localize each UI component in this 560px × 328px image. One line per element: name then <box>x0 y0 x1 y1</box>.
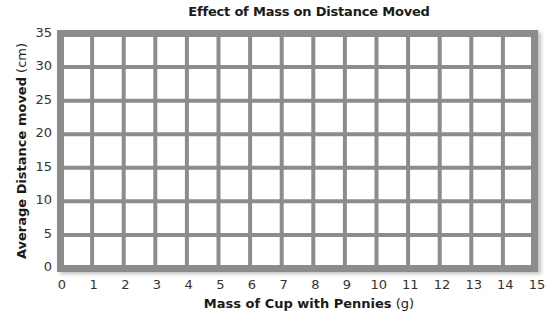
y-tick-label: 30 <box>24 59 52 73</box>
y-tick-label: 20 <box>24 126 52 140</box>
y-tick-label: 15 <box>24 160 52 174</box>
x-tick-label: 0 <box>50 278 74 292</box>
x-axis-label-unit: (g) <box>396 296 414 311</box>
x-tick-label: 12 <box>430 278 454 292</box>
x-tick-label: 8 <box>303 278 327 292</box>
x-tick-label: 13 <box>462 278 486 292</box>
x-tick-label: 10 <box>367 278 391 292</box>
x-tick-label: 2 <box>113 278 137 292</box>
chart-title: Effect of Mass on Distance Moved <box>0 4 560 24</box>
x-tick-label: 15 <box>525 278 549 292</box>
plot-area <box>57 30 538 272</box>
y-tick-label: 35 <box>24 26 52 40</box>
grid <box>57 30 538 272</box>
x-tick-label: 4 <box>177 278 201 292</box>
x-tick-label: 9 <box>335 278 359 292</box>
x-tick-label: 5 <box>208 278 232 292</box>
y-tick-label: 5 <box>24 227 52 241</box>
x-axis-label: Mass of Cup with Pennies (g) <box>0 296 560 311</box>
x-tick-label: 14 <box>493 278 517 292</box>
x-axis-label-text: Mass of Cup with Pennies <box>204 296 392 311</box>
x-tick-label: 11 <box>398 278 422 292</box>
x-tick-label: 3 <box>145 278 169 292</box>
y-tick-label: 10 <box>24 193 52 207</box>
x-tick-label: 1 <box>82 278 106 292</box>
x-tick-label: 7 <box>272 278 296 292</box>
y-tick-label: 25 <box>24 93 52 107</box>
y-tick-label: 0 <box>24 260 52 274</box>
x-tick-label: 6 <box>240 278 264 292</box>
